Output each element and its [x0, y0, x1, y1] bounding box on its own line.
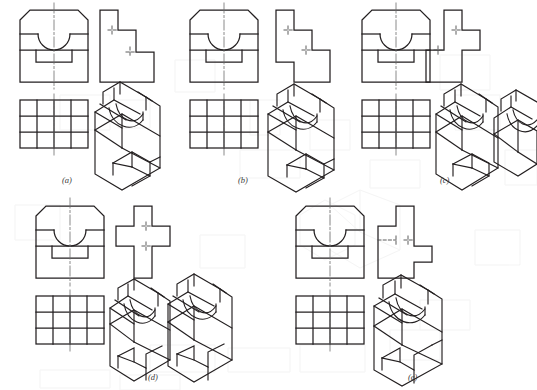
panel-d-drawing: [22, 196, 272, 374]
side-view-hidden-lines: [434, 26, 462, 55]
panel-e: (e): [282, 196, 532, 390]
panel-c: (c): [348, 0, 537, 190]
isometric-pictorial-secondary: [168, 274, 232, 382]
side-view-outline: [378, 206, 432, 278]
isometric-pictorial: [268, 84, 334, 192]
side-view-outline: [426, 10, 480, 82]
side-view-hidden-lines: [378, 236, 414, 245]
panel-caption-a: (a): [62, 175, 72, 185]
figure-root: (a): [0, 0, 537, 390]
isometric-pictorial: [110, 279, 170, 381]
panel-caption-e: (e): [408, 372, 417, 382]
side-view-outline: [276, 10, 330, 82]
side-view-outline: [116, 206, 170, 278]
panel-caption-d: (d): [148, 372, 158, 382]
panel-b-drawing: [172, 0, 352, 175]
side-view-hidden-lines: [142, 222, 152, 251]
panel-b: (b): [172, 0, 352, 190]
panel-caption-b: (b): [238, 175, 248, 185]
isometric-pictorial: [95, 82, 160, 190]
panel-a-drawing: [0, 0, 175, 175]
panel-a: (a): [0, 0, 175, 190]
isometric-pictorial-secondary: [494, 90, 537, 176]
panel-c-drawing: [348, 0, 537, 175]
panel-e-drawing: [282, 196, 532, 374]
panel-d: (d): [22, 196, 272, 390]
panel-caption-c: (c): [440, 175, 449, 185]
side-view-outline: [100, 10, 154, 82]
isometric-pictorial: [374, 275, 442, 386]
